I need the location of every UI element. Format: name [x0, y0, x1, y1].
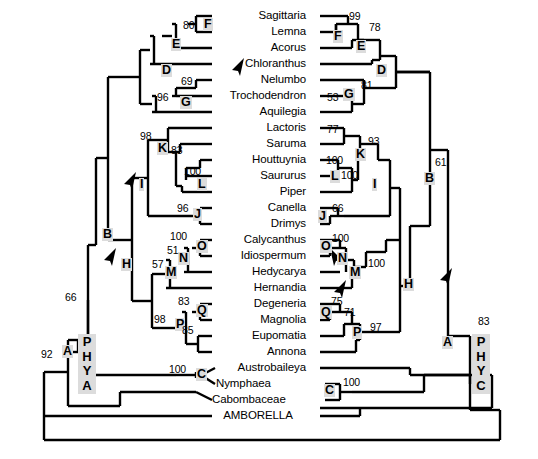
taxon-label: Acorus: [212, 42, 306, 53]
arrow-phyc-A: [440, 268, 452, 286]
phyc-node-E: E: [356, 40, 366, 53]
phya-support-C: 100: [169, 364, 186, 374]
taxon-label: Hernandia: [212, 282, 306, 293]
phya-support-P: 98: [154, 314, 165, 324]
phya-node-D: D: [161, 64, 172, 77]
phya-node-I: I: [139, 178, 144, 191]
arrow-phya-I: [124, 172, 136, 190]
phyc-node-O: O: [320, 240, 332, 253]
phyc-support-E: 78: [369, 22, 380, 32]
phya-node-E: E: [171, 38, 181, 51]
taxon-label: Degeneria: [212, 298, 306, 309]
taxon-label: Chloranthus: [212, 58, 306, 69]
taxon-label: Drimys: [212, 218, 306, 229]
taxon-label: Aquilegia: [212, 106, 306, 117]
phya-node-F: F: [203, 18, 213, 31]
phya-support-A: 92: [41, 349, 52, 359]
taxon-label: Lemna: [212, 26, 306, 37]
phyc-node-B: B: [424, 172, 435, 185]
taxon-label: Saururus: [212, 170, 306, 181]
taxon-label: Idiospermum: [210, 250, 306, 261]
phyc-support-K: 93: [368, 136, 379, 146]
phya-node-H: H: [121, 258, 132, 271]
phya-support-B: 66: [65, 292, 76, 302]
phya-support-G-upper: 69: [181, 76, 192, 86]
phya-node-M: M: [165, 266, 177, 279]
taxon-label: Cabombaceae: [212, 394, 306, 405]
phya-node-O: O: [196, 240, 208, 253]
phya-support-L: 100: [184, 166, 201, 176]
phya-support-O: 100: [170, 231, 187, 241]
phyc-support-M: 100: [368, 258, 385, 268]
phya-node-C: C: [196, 368, 207, 381]
taxon-label: Saruma: [212, 138, 306, 149]
phya-node-A: A: [62, 345, 73, 358]
phya-node-K: K: [157, 142, 168, 155]
phya-support-P-inner: 85: [182, 325, 193, 335]
phyc-support-F-inner: 99: [349, 11, 360, 21]
taxon-label: Lactoris: [212, 122, 306, 133]
taxon-label: Austrobaileya: [210, 362, 306, 373]
phya-node-B: B: [102, 228, 113, 241]
gene-label-phya: P H Y A: [78, 334, 96, 394]
phyc-node-P: P: [352, 326, 362, 339]
taxon-label: Trochodendron: [206, 90, 306, 101]
phya-support-F: 80: [183, 20, 194, 30]
phya-support-M: 57: [152, 259, 163, 269]
taxon-label: Piper: [212, 186, 306, 197]
phyc-node-J: J: [318, 210, 327, 223]
phya-support-K: 98: [140, 131, 151, 141]
phya-support-G-lower: 96: [157, 92, 168, 102]
taxon-label: Annona: [212, 346, 306, 357]
phyc-support-B: 61: [435, 157, 446, 167]
phya-node-Q: Q: [196, 304, 208, 317]
taxon-label: Eupomatia: [212, 330, 306, 341]
phya-support-J: 96: [177, 203, 188, 213]
phya-node-J: J: [193, 208, 202, 221]
phyc-node-C: C: [324, 384, 335, 397]
phyc-node-G: G: [343, 88, 355, 101]
phyc-node-D: D: [376, 64, 387, 77]
phyc-node-F: F: [333, 30, 343, 43]
phya-support-Q: 83: [178, 296, 189, 306]
phyc-node-L: L: [330, 170, 340, 183]
taxon-label: Calycanthus: [212, 234, 306, 245]
phyc-node-Q: Q: [320, 306, 332, 319]
phyc-node-I: I: [372, 178, 377, 191]
phya-node-L: L: [197, 178, 207, 191]
phyc-support-D: 81: [361, 80, 372, 90]
phyc-node-M: M: [349, 266, 361, 279]
phyc-support-K-inner: 77: [327, 124, 338, 134]
phyc-support-Q: 75: [331, 296, 342, 306]
figure-canvas: Sagittaria Lemna Acorus Chloranthus Nelu…: [0, 0, 538, 459]
phyc-support-O: 100: [332, 233, 349, 243]
taxon-label: Hedycarya: [212, 266, 306, 277]
phyc-support-L-lower: 100: [341, 170, 358, 180]
phyc-node-H: H: [403, 278, 414, 291]
phyc-support-J: 66: [332, 203, 343, 213]
taxon-label: Houttuynia: [212, 154, 306, 165]
phya-node-N: N: [178, 252, 189, 265]
phya-support-N: 51: [167, 245, 178, 255]
phya-support-K-inner: 83: [171, 145, 182, 155]
taxon-label: Canella: [212, 202, 306, 213]
gene-label-phyc: P H Y C: [472, 334, 490, 394]
phyc-support-C: 100: [343, 377, 360, 387]
phya-node-G: G: [180, 96, 192, 109]
phyc-node-N: N: [337, 252, 348, 265]
phyc-support-P: 97: [370, 322, 381, 332]
taxon-label: Magnolia: [212, 314, 306, 325]
phyc-support-A: 83: [478, 316, 489, 326]
taxon-label: Nymphaea: [216, 378, 306, 389]
phyc-support-G: 53: [327, 92, 338, 102]
taxon-label: Sagittaria: [212, 10, 306, 21]
taxon-label: AMBORELLA: [210, 410, 306, 421]
arrow-phya-H: [104, 248, 116, 266]
phyc-support-P-inner: 71: [344, 307, 355, 317]
phyc-support-L-upper: 100: [326, 155, 343, 165]
taxon-label: Nelumbo: [212, 74, 306, 85]
phyc-node-K: K: [355, 148, 366, 161]
phyc-node-A: A: [442, 336, 453, 349]
